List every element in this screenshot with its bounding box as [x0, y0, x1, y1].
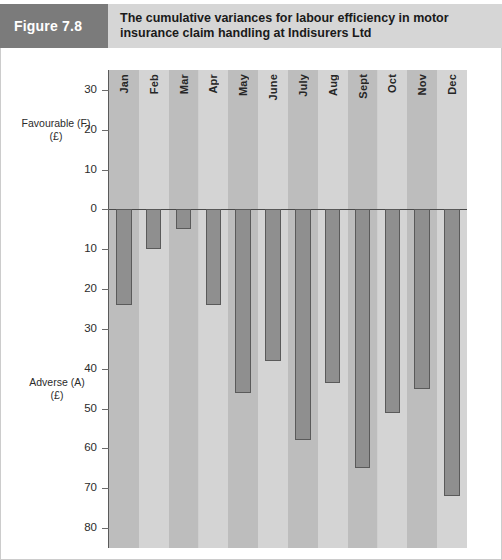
- figure-header: Figure 7.8 The cumulative variances for …: [0, 4, 502, 48]
- figure-title-line-2: insurance claim handling at Indisurers L…: [120, 26, 449, 41]
- y-tick-mark: [102, 488, 109, 489]
- zero-baseline: [109, 209, 467, 210]
- bar-oct[interactable]: [385, 209, 401, 412]
- figure-title: The cumulative variances for labour effi…: [108, 4, 502, 48]
- y-tick-mark: [102, 130, 109, 131]
- y-tick-mark: [102, 409, 109, 410]
- month-label-dec: Dec: [446, 74, 458, 95]
- y-tick-label: 80: [61, 522, 97, 534]
- y-tick-mark: [102, 528, 109, 529]
- bar-nov[interactable]: [414, 209, 430, 388]
- y-tick-label: 30: [61, 323, 97, 335]
- bar-apr[interactable]: [206, 209, 222, 305]
- y-tick-mark: [102, 90, 109, 91]
- column-band: [169, 70, 199, 548]
- adverse-axis-caption: Adverse (A) (£): [17, 376, 97, 402]
- y-tick-mark: [102, 289, 109, 290]
- y-tick-label: 20: [61, 283, 97, 295]
- bar-jan[interactable]: [116, 209, 132, 305]
- bar-july[interactable]: [295, 209, 311, 440]
- y-tick-mark: [102, 249, 109, 250]
- month-label-sept: Sept: [357, 74, 369, 99]
- y-tick-label: 60: [61, 442, 97, 454]
- adverse-caption-line-2: (£): [17, 389, 97, 402]
- month-label-feb: Feb: [148, 74, 160, 94]
- adverse-caption-line-1: Adverse (A): [17, 376, 97, 389]
- month-label-july: July: [297, 74, 309, 97]
- y-tick-label: 30: [61, 84, 97, 96]
- y-tick-label: 40: [61, 363, 97, 375]
- bar-sept[interactable]: [355, 209, 371, 468]
- bar-june[interactable]: [265, 209, 281, 360]
- y-tick-mark: [102, 448, 109, 449]
- month-label-jan: Jan: [118, 74, 130, 94]
- month-label-oct: Oct: [386, 74, 398, 93]
- y-tick-mark: [102, 170, 109, 171]
- column-band: [109, 70, 139, 548]
- bar-may[interactable]: [235, 209, 251, 392]
- y-tick-label: 0: [61, 203, 97, 215]
- plot-area: JanFebMarAprMayJuneJulyAugSeptOctNovDec: [109, 70, 467, 548]
- y-tick-label: 10: [61, 164, 97, 176]
- column-band: [139, 70, 169, 548]
- bar-mar[interactable]: [176, 209, 192, 229]
- y-tick-mark: [102, 329, 109, 330]
- bar-aug[interactable]: [325, 209, 341, 382]
- month-label-apr: Apr: [207, 74, 219, 94]
- month-label-may: May: [237, 74, 249, 96]
- chart-container: 30201001020304050607080 Favourable (F) (…: [0, 48, 502, 560]
- y-tick-mark: [102, 209, 109, 210]
- y-tick-label: 50: [61, 403, 97, 415]
- favourable-axis-caption: Favourable (F) (£): [13, 117, 99, 143]
- favourable-caption-line-2: (£): [13, 130, 99, 143]
- y-tick-label: 10: [61, 243, 97, 255]
- y-tick-mark: [102, 369, 109, 370]
- favourable-caption-line-1: Favourable (F): [13, 117, 99, 130]
- column-band: [199, 70, 229, 548]
- y-tick-label: 70: [61, 482, 97, 494]
- month-label-june: June: [267, 74, 279, 100]
- figure-number-tag: Figure 7.8: [0, 4, 108, 48]
- bar-feb[interactable]: [146, 209, 162, 249]
- month-label-mar: Mar: [178, 74, 190, 94]
- bar-dec[interactable]: [444, 209, 460, 496]
- month-label-aug: Aug: [327, 74, 339, 96]
- figure-title-line-1: The cumulative variances for labour effi…: [120, 11, 449, 26]
- month-label-nov: Nov: [416, 74, 428, 95]
